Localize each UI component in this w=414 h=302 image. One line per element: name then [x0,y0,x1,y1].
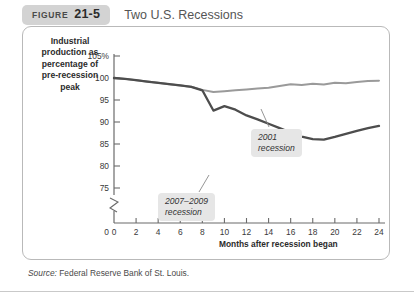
figure-header: Figure 21-5 Two U.S. Recessions [22,4,243,25]
svg-text:18: 18 [308,227,318,237]
annotation-2001-line2: recession [258,143,295,154]
annotation-leader-line-1 [199,175,209,192]
svg-text:90: 90 [100,117,110,127]
svg-text:105%: 105% [88,51,110,61]
source-text: Federal Reserve Bank of St. Louis. [59,268,189,278]
series-line-2007-2009 [114,78,379,140]
svg-text:4: 4 [156,227,161,237]
svg-text:10: 10 [220,227,230,237]
svg-text:14: 14 [264,227,274,237]
svg-text:12: 12 [242,227,252,237]
line-chart: 7580859095100105%0024681012141618202224 [23,27,391,261]
figure-badge: Figure 21-5 [22,5,110,25]
svg-text:85: 85 [100,139,110,149]
svg-text:8: 8 [200,227,205,237]
plot-area: 7580859095100105%0024681012141618202224 [23,27,391,261]
annotation-0709-line2: recession [165,207,208,218]
svg-text:80: 80 [100,161,110,171]
annotation-leader-line-0 [261,109,269,127]
svg-text:6: 6 [178,227,183,237]
source-note: Source: Federal Reserve Bank of St. Loui… [28,268,189,278]
annotation-2001-line1: 2001 [258,132,295,143]
svg-text:0: 0 [104,227,109,237]
source-prefix: Source: [28,268,57,278]
svg-text:2: 2 [134,227,139,237]
annotation-0709-line1: 2007–2009 [165,196,208,207]
x-axis-label: Months after recession began [219,239,338,249]
series-line-2001 [114,78,379,92]
svg-text:95: 95 [100,95,110,105]
svg-text:16: 16 [286,227,296,237]
svg-text:75: 75 [100,183,110,193]
svg-text:24: 24 [374,227,384,237]
svg-text:20: 20 [330,227,340,237]
figure-container: Figure 21-5 Two U.S. Recessions Industri… [0,0,414,302]
bottom-divider [0,291,414,292]
figure-title: Two U.S. Recessions [124,8,243,22]
figure-badge-number: 21-5 [74,7,100,21]
svg-text:100: 100 [95,73,109,83]
figure-badge-word: Figure [32,10,68,20]
annotation-2001-recession: 2001 recession [251,129,302,157]
chart-panel: Industrialproduction aspercentage ofpre-… [22,26,390,260]
svg-text:22: 22 [352,227,362,237]
svg-text:0: 0 [112,227,117,237]
annotation-2007-2009-recession: 2007–2009 recession [158,193,215,221]
